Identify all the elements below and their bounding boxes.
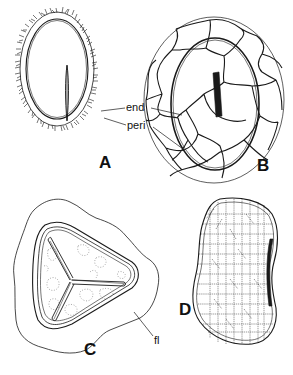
endospore-wall-outer xyxy=(26,19,88,119)
label-peri: peri xyxy=(127,119,145,131)
flange-outline xyxy=(14,199,159,353)
leader-lines-a xyxy=(101,108,126,125)
endospore-wall-inner xyxy=(28,21,87,118)
panel-a-drawing xyxy=(15,7,98,131)
panel-label-a: A xyxy=(99,153,111,173)
spore-diagram xyxy=(0,0,293,375)
panel-d-drawing xyxy=(193,198,278,344)
exospore-wall-outer xyxy=(33,222,139,329)
trilete-mark xyxy=(48,237,126,320)
label-end: end xyxy=(126,101,144,113)
panel-label-c: C xyxy=(84,340,96,360)
bean-outline-outer xyxy=(193,198,278,344)
reticulate-cells xyxy=(197,199,274,344)
laesura-b xyxy=(213,72,222,117)
label-fl: fl xyxy=(154,334,160,346)
panel-c-drawing xyxy=(14,199,159,353)
panel-label-b: B xyxy=(257,156,269,176)
reticulum xyxy=(146,19,282,178)
panel-label-d: D xyxy=(179,300,191,320)
bean-outline-inner xyxy=(197,202,274,340)
exospore-wall-inner xyxy=(37,227,134,325)
leader-lines-b xyxy=(151,108,183,149)
